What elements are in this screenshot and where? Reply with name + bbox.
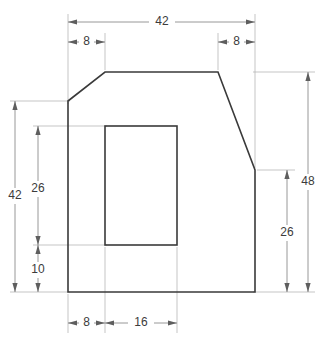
arrow-bottom-right-lower bbox=[284, 283, 289, 292]
arrow-bottom-left-overall bbox=[12, 283, 17, 292]
dimension-left-lower: 10 bbox=[25, 245, 51, 292]
arrow-right-top-overall bbox=[246, 19, 255, 24]
dimension-bottom-cutout-width: 16 bbox=[105, 315, 177, 331]
dimension-bottom-offset: 8 bbox=[68, 315, 105, 331]
dimension-top-right-chamfer: 8 bbox=[218, 34, 255, 50]
dim-label-top-right-chamfer: 8 bbox=[233, 34, 240, 48]
dim-label-left-overall: 42 bbox=[8, 188, 22, 202]
dim-label-left-lower: 10 bbox=[31, 262, 45, 276]
arrow-top-left-lower bbox=[35, 245, 40, 254]
technical-drawing-canvas: 42 8 8 42 bbox=[0, 0, 325, 353]
dim-label-right-overall: 48 bbox=[301, 174, 315, 188]
rectangular-cutout bbox=[105, 126, 177, 245]
arrow-left-top-left-chamfer bbox=[68, 39, 77, 44]
engineering-drawing: 42 8 8 42 bbox=[0, 0, 325, 353]
dimension-right-overall: 48 bbox=[295, 72, 321, 292]
dimension-top-overall: 42 bbox=[68, 14, 255, 30]
arrow-left-bottom-cutout-width bbox=[105, 320, 114, 325]
arrow-right-top-left-chamfer bbox=[96, 39, 105, 44]
arrow-right-bottom-cutout-width bbox=[168, 320, 177, 325]
dim-label-bottom-offset: 8 bbox=[83, 315, 90, 329]
arrow-left-bottom-offset bbox=[68, 320, 77, 325]
arrow-bottom-right-overall bbox=[305, 283, 310, 292]
dimension-top-left-chamfer: 8 bbox=[68, 34, 105, 50]
arrow-bottom-left-upper bbox=[35, 236, 40, 245]
arrow-left-top-overall bbox=[68, 19, 77, 24]
dim-label-bottom-cutout-width: 16 bbox=[134, 315, 148, 329]
extension-lines bbox=[10, 14, 315, 333]
dim-label-top-left-chamfer: 8 bbox=[83, 34, 90, 48]
dimension-left-overall: 42 bbox=[2, 101, 28, 292]
arrow-top-right-lower bbox=[284, 170, 289, 179]
arrow-top-left-upper bbox=[35, 126, 40, 135]
arrow-bottom-left-lower bbox=[35, 283, 40, 292]
part-outline bbox=[68, 72, 255, 292]
dim-label-left-upper: 26 bbox=[31, 181, 45, 195]
arrow-top-left-overall bbox=[12, 101, 17, 110]
dim-label-right-lower: 26 bbox=[280, 225, 294, 239]
arrow-right-top-right-chamfer bbox=[246, 39, 255, 44]
dim-label-top-overall: 42 bbox=[155, 14, 169, 28]
arrow-left-top-right-chamfer bbox=[218, 39, 227, 44]
arrow-top-right-overall bbox=[305, 72, 310, 81]
dimension-left-upper: 26 bbox=[25, 126, 51, 245]
arrow-right-bottom-offset bbox=[96, 320, 105, 325]
